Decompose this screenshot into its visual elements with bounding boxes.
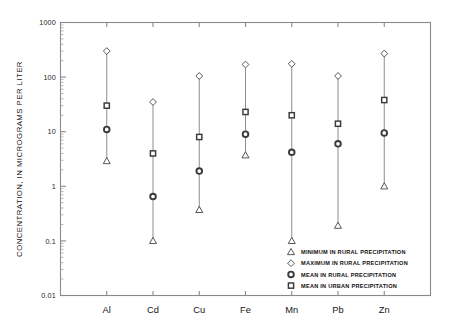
maximum-rural-marker: [150, 99, 157, 106]
mean-urban-marker: [243, 109, 248, 114]
x-tick-label: Zn: [379, 305, 390, 315]
chart-canvas: 10001001010.10.01 AlCdCuFeMnPbZn CONCENT…: [0, 0, 458, 333]
legend-square-icon: [288, 283, 293, 288]
legend-entry: MEAN IN URBAN PRECIPITATION: [288, 283, 397, 289]
y-tick-label: 0.1: [45, 237, 56, 246]
maximum-rural-marker: [335, 73, 342, 80]
minimum-rural-marker: [196, 206, 203, 212]
minimum-rural-marker: [381, 183, 388, 189]
series-column-zn: [381, 50, 388, 189]
mean-urban-marker: [335, 121, 340, 126]
mean-urban-marker: [197, 134, 202, 139]
y-axis-ticks: [61, 23, 67, 296]
mean-rural-marker: [289, 149, 295, 155]
mean-urban-marker: [289, 113, 294, 118]
maximum-rural-marker: [103, 48, 110, 55]
legend-label: MEAN IN RURAL PRECIPITATION: [301, 272, 396, 278]
legend-entry: MINIMUM IN RURAL PRECIPITATION: [288, 249, 406, 256]
data-series: [103, 48, 388, 244]
y-tick-label: 0.01: [41, 291, 56, 300]
minimum-rural-marker: [150, 237, 157, 243]
minimum-rural-marker: [242, 152, 249, 158]
legend-triangle-icon: [288, 249, 295, 255]
series-column-al: [103, 48, 110, 164]
legend-diamond-icon: [288, 260, 295, 267]
mean-urban-marker: [382, 97, 387, 102]
x-tick-label: Fe: [240, 305, 251, 315]
mean-urban-marker: [150, 151, 155, 156]
mean-urban-marker: [104, 103, 109, 108]
series-column-pb: [335, 73, 342, 229]
mean-rural-marker: [196, 168, 202, 174]
legend-entry: MAXIMUM IN RURAL PRECIPITATION: [288, 260, 408, 267]
legend-label: MINIMUM IN RURAL PRECIPITATION: [301, 249, 406, 255]
minimum-rural-marker: [103, 158, 110, 164]
x-tick-label: Cd: [147, 305, 159, 315]
mean-rural-marker: [381, 130, 387, 136]
legend-label: MAXIMUM IN RURAL PRECIPITATION: [301, 260, 408, 266]
x-tick-label: Cu: [193, 305, 205, 315]
maximum-rural-marker: [288, 60, 295, 67]
x-tick-label: Pb: [332, 305, 343, 315]
chart-legend: MINIMUM IN RURAL PRECIPITATIONMAXIMUM IN…: [288, 249, 408, 289]
legend-entry: MEAN IN RURAL PRECIPITATION: [288, 272, 396, 278]
mean-rural-marker: [104, 127, 110, 133]
x-axis-tick-labels: AlCdCuFeMnPbZn: [103, 305, 390, 315]
y-tick-label: 1000: [39, 18, 56, 27]
mean-rural-marker: [335, 141, 341, 147]
legend-circle-icon: [288, 272, 294, 278]
y-axis-title: CONCENTRATION, IN MICROGRAMS PER LITER: [15, 61, 24, 257]
y-tick-label: 100: [43, 73, 56, 82]
x-tick-label: Al: [103, 305, 111, 315]
precipitation-concentration-chart: 10001001010.10.01 AlCdCuFeMnPbZn CONCENT…: [0, 0, 458, 333]
maximum-rural-marker: [242, 61, 249, 68]
maximum-rural-marker: [196, 73, 203, 80]
series-column-cu: [196, 73, 203, 213]
series-column-cd: [150, 99, 157, 244]
y-axis-tick-labels: 10001001010.10.01: [39, 18, 56, 300]
minimum-rural-marker: [335, 222, 342, 228]
legend-label: MEAN IN URBAN PRECIPITATION: [301, 283, 397, 289]
mean-rural-marker: [243, 131, 249, 137]
y-tick-label: 1: [52, 182, 56, 191]
maximum-rural-marker: [381, 50, 388, 57]
series-column-mn: [288, 60, 295, 243]
minimum-rural-marker: [288, 237, 295, 243]
x-tick-label: Mn: [285, 305, 298, 315]
y-axis-title-text: CONCENTRATION, IN MICROGRAMS PER LITER: [15, 61, 24, 257]
mean-rural-marker: [150, 194, 156, 200]
y-tick-label: 10: [48, 127, 56, 136]
series-column-fe: [242, 61, 249, 158]
